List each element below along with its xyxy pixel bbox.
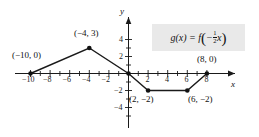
x-tick-label-6: 6 [185,75,189,84]
formula-minus: − [206,32,213,43]
point-marker [87,46,92,51]
y-tick-label-2: 2 [119,52,123,61]
formula-box: g(x) = f(−12x) [152,24,245,51]
formula-fraction: 12 [213,30,216,45]
point-marker [146,88,151,93]
point-label-neg4-3: (−4, 3) [74,28,99,38]
y-axis-label: y [120,6,124,16]
point-marker [126,71,131,76]
graph-canvas [0,0,259,137]
formula-text: g(x) = f(−12x) [152,24,245,51]
x-tick-label-4: 4 [165,75,169,84]
formula-prefix: g(x) = f [170,32,201,43]
point-label-8-0: (8, 0) [197,54,217,64]
x-tick-label-8: 8 [205,75,209,84]
y-tick-label-neg2: −2 [114,86,123,95]
x-tick-label-neg10: −10 [22,75,35,84]
fraction-denominator: 2 [213,37,216,45]
formula-close-paren: ) [222,30,227,47]
point-label-neg10-0: (−10, 0) [12,50,41,60]
x-tick-label-neg4: −4 [82,75,91,84]
graph-figure: −10 −8 −6 −4 −2 2 4 6 8 4 2 −2 −4 y x (−… [0,0,259,137]
point-marker [185,88,190,93]
x-axis-label: x [231,79,235,89]
x-tick-label-neg6: −6 [63,75,72,84]
x-tick-label-2: 2 [146,75,150,84]
fraction-numerator: 1 [213,30,216,37]
x-tick-label-neg8: −8 [43,75,52,84]
point-label-2-neg2: (2, −2) [129,94,154,104]
formula-open-paren: ( [201,30,206,47]
point-label-6-neg2: (6, −2) [188,94,213,104]
y-tick-label-neg4: −4 [114,103,123,112]
x-tick-label-neg2: −2 [102,75,111,84]
y-tick-label-4: 4 [119,35,123,44]
